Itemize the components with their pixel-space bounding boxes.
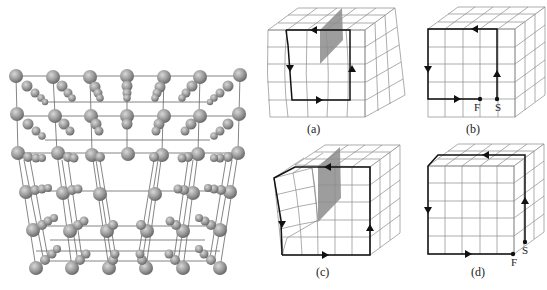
arrow-up-icon [493,70,501,77]
burgers-circuit [428,155,525,254]
arrow-down-icon [424,207,432,214]
arrow-right-icon [322,251,329,259]
arrow-down-icon [286,65,294,72]
panel-a [267,8,405,117]
point-f-label-d: F [511,256,517,268]
panel-d [424,144,544,258]
panel-label-a: (a) [307,122,320,137]
lattice-model [9,68,247,275]
panel-c [274,145,400,259]
arrow-right-icon [316,96,323,104]
arrow-up-icon [348,65,356,72]
arrow-right-icon [465,250,472,258]
lattice-bonds [16,76,240,268]
panel-label-b: (b) [466,122,480,137]
panel-label-c: (c) [316,265,329,280]
point-f-label-b: F [474,101,480,113]
point-s-label-d: S [522,244,528,256]
arrow-down-icon [424,66,432,73]
dislocation-figure [0,0,547,290]
point-s-label-b: S [495,101,501,113]
arrow-right-icon [454,95,461,103]
lattice-atoms [9,68,247,275]
panel-b [424,7,545,117]
panel-label-d: (d) [471,265,485,280]
